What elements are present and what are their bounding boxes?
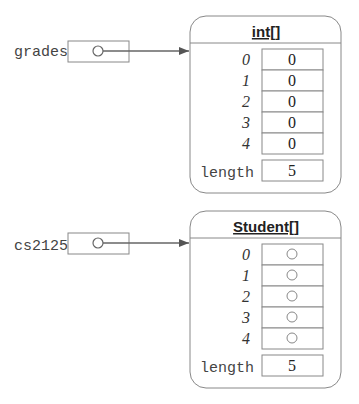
cell-value: 0 [288, 72, 296, 89]
object-type-title: int[] [252, 23, 280, 40]
index-label: 0 [242, 51, 250, 68]
index-label: 0 [242, 246, 250, 263]
length-label: length [200, 360, 254, 377]
variable-name: cs2125 [14, 238, 68, 255]
index-label: 1 [242, 72, 250, 89]
memory-diagram: grades int[] 0 1 2 3 4 0 0 0 0 0 length … [0, 0, 359, 404]
cell-value: 0 [288, 114, 296, 131]
index-label: 3 [241, 114, 250, 131]
null-reference-icon [287, 333, 297, 343]
reference-dot-icon [93, 238, 103, 248]
length-label: length [200, 165, 254, 182]
object-type-title: Student[] [233, 218, 299, 235]
length-value: 5 [288, 357, 296, 374]
cell-value: 0 [288, 51, 296, 68]
null-reference-icon [287, 291, 297, 301]
index-label: 2 [242, 288, 250, 305]
variable-cs2125: cs2125 [14, 233, 189, 255]
index-label: 4 [242, 330, 250, 347]
variable-name: grades [14, 44, 68, 61]
index-label: 3 [241, 309, 250, 326]
null-reference-icon [287, 312, 297, 322]
index-label: 4 [242, 135, 250, 152]
index-label: 2 [242, 93, 250, 110]
object-student-array: Student[] 0 1 2 3 4 length 5 [190, 211, 341, 388]
index-label: 1 [242, 267, 250, 284]
variable-grades: grades [14, 41, 189, 62]
reference-dot-icon [93, 46, 103, 56]
object-int-array: int[] 0 1 2 3 4 0 0 0 0 0 length 5 [190, 16, 341, 193]
null-reference-icon [287, 270, 297, 280]
null-reference-icon [287, 249, 297, 259]
cell-value: 0 [288, 135, 296, 152]
cell-value: 0 [288, 93, 296, 110]
length-value: 5 [288, 162, 296, 179]
